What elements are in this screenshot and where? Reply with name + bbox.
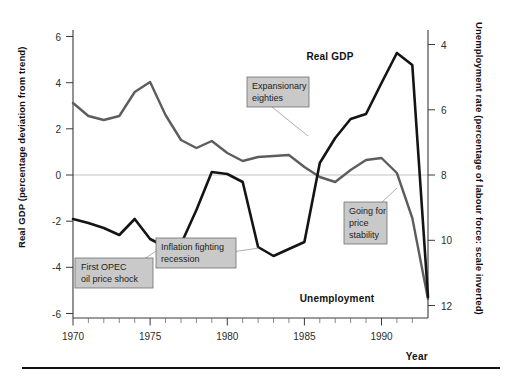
annotation-opec-line-1: First OPEC bbox=[81, 262, 127, 272]
left-axis-title: Real GDP (percentage deviation from tren… bbox=[16, 47, 27, 248]
left-tick-6: 6 bbox=[55, 32, 61, 43]
x-tick-1975: 1975 bbox=[139, 331, 162, 342]
left-tick-0: 0 bbox=[55, 170, 61, 181]
x-axis-minor-ticks bbox=[88, 318, 412, 323]
annotation-leader-eighties bbox=[272, 107, 308, 136]
annotation-stability-line-1: Going for bbox=[349, 206, 386, 216]
annotation-going-for-price-stability: Going for price stability bbox=[344, 188, 397, 244]
business-cycle-line-chart: 6 4 2 0 -2 -4 -6 Real GDP (percentage de… bbox=[0, 0, 507, 378]
annotation-eighties-line-1: Expansionary bbox=[252, 81, 307, 91]
left-axis-ticks bbox=[66, 37, 73, 314]
annotation-eighties-line-2: eighties bbox=[252, 93, 284, 103]
x-tick-1985: 1985 bbox=[293, 331, 316, 342]
x-tick-1970: 1970 bbox=[62, 331, 85, 342]
right-axis-tick-labels: 4 6 8 10 12 bbox=[441, 40, 453, 312]
x-axis-tick-labels: 1970 1975 1980 1985 1990 bbox=[62, 331, 393, 342]
annotation-stability-line-2: price bbox=[349, 218, 369, 228]
annotation-inflation-line-2: recession bbox=[161, 254, 200, 264]
left-tick-neg4: -4 bbox=[52, 262, 61, 273]
right-tick-6: 6 bbox=[441, 105, 447, 116]
x-tick-1990: 1990 bbox=[370, 331, 393, 342]
right-tick-12: 12 bbox=[441, 301, 453, 312]
annotation-expansionary-eighties: Expansionary eighties bbox=[247, 77, 309, 136]
x-axis-title: Year bbox=[406, 351, 428, 362]
left-tick-2: 2 bbox=[55, 124, 61, 135]
annotation-inflation-fighting-recession: Inflation fighting recession bbox=[156, 238, 259, 268]
right-axis-ticks bbox=[428, 45, 435, 306]
right-tick-4: 4 bbox=[441, 40, 447, 51]
annotation-stability-line-3: stability bbox=[349, 230, 380, 240]
right-axis-title: Unemployment rate (percentage of labour … bbox=[474, 22, 485, 315]
left-axis-tick-labels: 6 4 2 0 -2 -4 -6 bbox=[52, 32, 61, 320]
left-tick-neg6: -6 bbox=[52, 309, 61, 320]
x-tick-1980: 1980 bbox=[216, 331, 239, 342]
right-tick-10: 10 bbox=[441, 235, 453, 246]
annotation-opec-line-2: oil price shock bbox=[81, 274, 139, 284]
right-tick-8: 8 bbox=[441, 170, 447, 181]
unemployment-series-label: Unemployment bbox=[300, 293, 375, 304]
real-gdp-series-label: Real GDP bbox=[306, 51, 353, 62]
annotation-inflation-line-1: Inflation fighting bbox=[161, 242, 224, 252]
left-tick-4: 4 bbox=[55, 78, 61, 89]
left-tick-neg2: -2 bbox=[52, 216, 61, 227]
chart-figure: 6 4 2 0 -2 -4 -6 Real GDP (percentage de… bbox=[0, 0, 507, 378]
